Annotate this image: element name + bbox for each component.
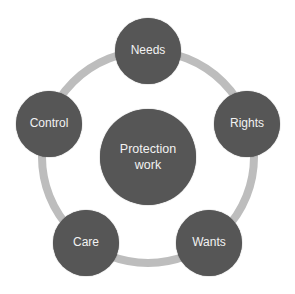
center-label-line2: work bbox=[135, 157, 161, 173]
node-label: Care bbox=[73, 235, 99, 251]
node-rights: Rights bbox=[214, 91, 280, 157]
center-label-line1: Protection bbox=[120, 141, 176, 157]
node-label: Rights bbox=[230, 116, 264, 132]
node-care: Care bbox=[53, 210, 119, 276]
node-wants: Wants bbox=[176, 210, 242, 276]
node-label: Wants bbox=[192, 235, 226, 251]
center-node-protection-work: Protection work bbox=[100, 109, 196, 205]
node-label: Control bbox=[30, 116, 69, 132]
node-label: Needs bbox=[131, 43, 166, 59]
node-needs: Needs bbox=[115, 18, 181, 84]
node-control: Control bbox=[16, 91, 82, 157]
